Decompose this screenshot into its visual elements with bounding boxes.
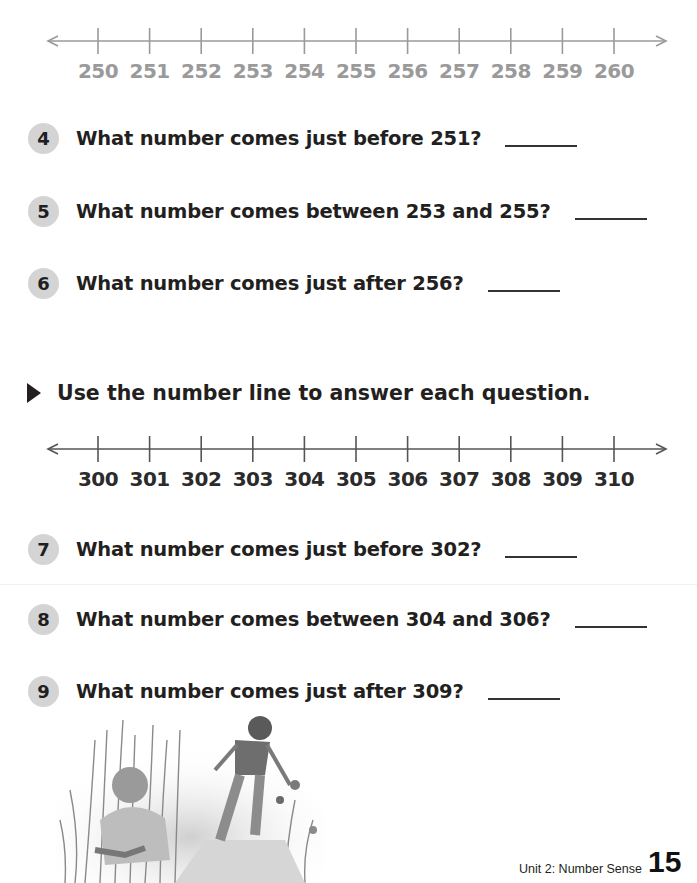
tick-label: 309 [542, 467, 582, 491]
question-number-badge: 7 [28, 534, 59, 565]
page-number: 15 [648, 845, 681, 879]
tick-label: 255 [336, 59, 376, 83]
tick-label: 250 [78, 59, 118, 83]
tick-label: 259 [542, 59, 582, 83]
tick-label: 257 [439, 59, 479, 83]
tick-label: 301 [129, 467, 169, 491]
question-number-badge: 6 [28, 268, 59, 299]
question-text: What number comes between 253 and 255? [76, 200, 551, 223]
question-7: 7 What number comes just before 302? [28, 533, 577, 565]
answer-blank[interactable] [488, 698, 560, 700]
tick-label: 306 [387, 467, 427, 491]
question-8: 8 What number comes between 304 and 306? [28, 603, 647, 635]
question-text: What number comes between 304 and 306? [76, 608, 551, 631]
unit-label: Unit 2: Number Sense [519, 862, 642, 876]
triangle-bullet-icon [27, 383, 41, 403]
instruction-text: Use the number line to answer each quest… [57, 381, 590, 405]
tick-label: 252 [181, 59, 221, 83]
tick-label: 310 [594, 467, 634, 491]
divider [0, 584, 697, 585]
answer-blank[interactable] [575, 218, 647, 220]
tick-label: 308 [491, 467, 531, 491]
question-6: 6 What number comes just after 256? [28, 267, 560, 299]
tick-label: 256 [387, 59, 427, 83]
children-in-meadow-illustration [55, 700, 325, 883]
question-text: What number comes just after 256? [76, 272, 464, 295]
question-text: What number comes just before 251? [76, 127, 481, 150]
answer-blank[interactable] [575, 626, 647, 628]
question-number-badge: 8 [28, 604, 59, 635]
tick-label: 251 [129, 59, 169, 83]
question-number-badge: 4 [28, 123, 59, 154]
number-line-300-310: 300 301 302 303 304 305 306 307 308 309 … [0, 420, 697, 500]
tick-label: 302 [181, 467, 221, 491]
tick-label: 258 [491, 59, 531, 83]
tick-label: 260 [594, 59, 634, 83]
tick-label: 300 [78, 467, 118, 491]
answer-blank[interactable] [505, 145, 577, 147]
question-text: What number comes just before 302? [76, 538, 481, 561]
question-4: 4 What number comes just before 251? [28, 122, 577, 154]
tick-label: 305 [336, 467, 376, 491]
instruction: Use the number line to answer each quest… [27, 381, 590, 405]
tick-label: 254 [284, 59, 324, 83]
number-line-250-260: 250 251 252 253 254 255 256 257 258 259 … [0, 0, 697, 90]
question-5: 5 What number comes between 253 and 255? [28, 195, 647, 227]
answer-blank[interactable] [488, 290, 560, 292]
tick-label: 304 [284, 467, 324, 491]
question-number-badge: 5 [28, 196, 59, 227]
tick-label: 253 [233, 59, 273, 83]
tick-label: 307 [439, 467, 479, 491]
answer-blank[interactable] [505, 556, 577, 558]
tick-label: 303 [233, 467, 273, 491]
